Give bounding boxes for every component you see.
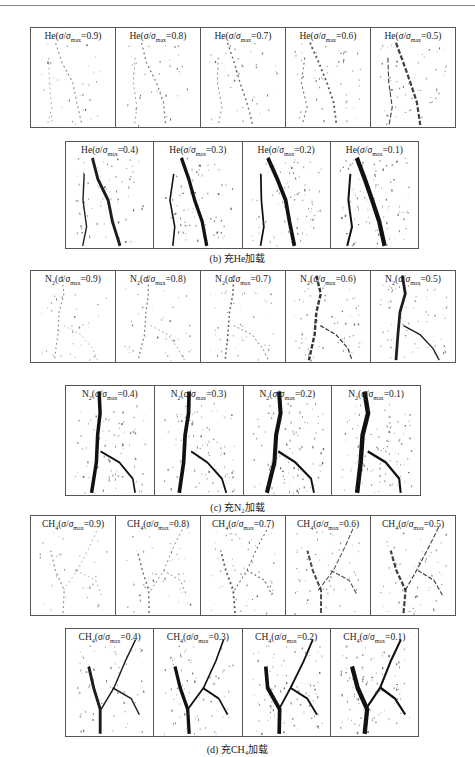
micrograph-panel-ch4-0.9: CH4(σ/σmax=0.9) <box>31 516 115 615</box>
he-row-1: He(σ/σmax=0.9)He(σ/σmax=0.8)He(σ/σmax=0.… <box>30 27 456 128</box>
panel-label: CH4(σ/σmax=0.7) <box>201 519 285 531</box>
page-header-rule <box>0 5 475 6</box>
panel-label: He(σ/σmax=0.8) <box>116 31 200 43</box>
micrograph-panel-n2-0.3: N2(σ/σmax=0.3) <box>154 386 243 495</box>
crack-pattern-icon <box>66 142 153 248</box>
micrograph-panel-ch4-0.3: CH4(σ/σmax=0.3) <box>153 629 241 736</box>
crack-pattern-icon <box>66 386 154 495</box>
panel-label: He(σ/σmax=0.3) <box>154 145 241 157</box>
panel-label: N2(σ/σmax=0.9) <box>31 274 115 286</box>
crack-pattern-icon <box>154 629 241 736</box>
panel-label: He(σ/σmax=0.6) <box>286 31 370 43</box>
n2-row-2: N2(σ/σmax=0.4)N2(σ/σmax=0.3)N2(σ/σmax=0.… <box>65 385 421 496</box>
micrograph-panel-n2-0.5: N2(σ/σmax=0.5) <box>370 271 455 362</box>
panel-label: CH4(σ/σmax=0.3) <box>154 632 241 644</box>
micrograph-panel-he-0.5: He(σ/σmax=0.5) <box>370 28 455 127</box>
crack-pattern-icon <box>331 629 418 736</box>
micrograph-panel-ch4-0.4: CH4(σ/σmax=0.4) <box>66 629 153 736</box>
panel-label: He(σ/σmax=0.5) <box>371 31 455 43</box>
panel-label: N2(σ/σmax=0.4) <box>66 389 154 401</box>
crack-pattern-icon <box>155 386 243 495</box>
micrograph-panel-ch4-0.7: CH4(σ/σmax=0.7) <box>200 516 285 615</box>
micrograph-panel-he-0.4: He(σ/σmax=0.4) <box>66 142 153 248</box>
micrograph-panel-n2-0.6: N2(σ/σmax=0.6) <box>285 271 370 362</box>
crack-pattern-icon <box>154 142 241 248</box>
panel-label: He(σ/σmax=0.4) <box>66 145 153 157</box>
panel-label: CH4(σ/σmax=0.5) <box>371 519 455 531</box>
panel-label: CH4(σ/σmax=0.2) <box>243 632 330 644</box>
crack-pattern-icon <box>66 629 153 736</box>
caption-he: (b) 充He加载 <box>0 250 475 265</box>
micrograph-panel-n2-0.9: N2(σ/σmax=0.9) <box>31 271 115 362</box>
panel-label: CH4(σ/σmax=0.4) <box>66 632 153 644</box>
panel-label: He(σ/σmax=0.9) <box>31 31 115 43</box>
micrograph-panel-he-0.2: He(σ/σmax=0.2) <box>242 142 330 248</box>
panel-label: CH4(σ/σmax=0.9) <box>31 519 115 531</box>
micrograph-panel-he-0.8: He(σ/σmax=0.8) <box>115 28 200 127</box>
micrograph-panel-he-0.6: He(σ/σmax=0.6) <box>285 28 370 127</box>
he-row-2: He(σ/σmax=0.4)He(σ/σmax=0.3)He(σ/σmax=0.… <box>65 141 419 249</box>
crack-pattern-icon <box>331 142 418 248</box>
n2-row-1: N2(σ/σmax=0.9)N2(σ/σmax=0.8)N2(σ/σmax=0.… <box>30 270 456 363</box>
micrograph-panel-ch4-0.6: CH4(σ/σmax=0.6) <box>285 516 370 615</box>
micrograph-panel-he-0.7: He(σ/σmax=0.7) <box>200 28 285 127</box>
panel-label: N2(σ/σmax=0.5) <box>371 274 455 286</box>
panel-label: He(σ/σmax=0.7) <box>201 31 285 43</box>
panel-label: N2(σ/σmax=0.8) <box>116 274 200 286</box>
crack-pattern-icon <box>244 386 332 495</box>
panel-label: He(σ/σmax=0.1) <box>331 145 418 157</box>
panel-label: N2(σ/σmax=0.1) <box>332 389 420 401</box>
micrograph-panel-he-0.3: He(σ/σmax=0.3) <box>153 142 241 248</box>
micrograph-panel-ch4-0.5: CH4(σ/σmax=0.5) <box>370 516 455 615</box>
panel-label: He(σ/σmax=0.2) <box>243 145 330 157</box>
micrograph-panel-ch4-0.2: CH4(σ/σmax=0.2) <box>242 629 330 736</box>
micrograph-panel-ch4-0.1: CH4(σ/σmax=0.1) <box>330 629 418 736</box>
panel-label: CH4(σ/σmax=0.6) <box>286 519 370 531</box>
crack-pattern-icon <box>243 142 330 248</box>
micrograph-panel-n2-0.1: N2(σ/σmax=0.1) <box>331 386 420 495</box>
panel-label: CH4(σ/σmax=0.8) <box>116 519 200 531</box>
micrograph-panel-ch4-0.8: CH4(σ/σmax=0.8) <box>115 516 200 615</box>
panel-label: N2(σ/σmax=0.2) <box>244 389 332 401</box>
panel-label: N2(σ/σmax=0.3) <box>155 389 243 401</box>
micrograph-panel-n2-0.7: N2(σ/σmax=0.7) <box>200 271 285 362</box>
crack-pattern-icon <box>332 386 420 495</box>
ch4-row-2: CH4(σ/σmax=0.4)CH4(σ/σmax=0.3)CH4(σ/σmax… <box>65 628 419 737</box>
caption-ch4: (d) 充CH₄加载 <box>0 741 475 756</box>
ch4-row-1: CH4(σ/σmax=0.9)CH4(σ/σmax=0.8)CH4(σ/σmax… <box>30 515 456 616</box>
micrograph-panel-n2-0.4: N2(σ/σmax=0.4) <box>66 386 154 495</box>
caption-n2: (c) 充N₂加载 <box>0 499 475 514</box>
panel-label: CH4(σ/σmax=0.1) <box>331 632 418 644</box>
panel-label: N2(σ/σmax=0.6) <box>286 274 370 286</box>
panel-label: N2(σ/σmax=0.7) <box>201 274 285 286</box>
micrograph-panel-n2-0.8: N2(σ/σmax=0.8) <box>115 271 200 362</box>
crack-pattern-icon <box>243 629 330 736</box>
micrograph-panel-n2-0.2: N2(σ/σmax=0.2) <box>243 386 332 495</box>
micrograph-panel-he-0.9: He(σ/σmax=0.9) <box>31 28 115 127</box>
micrograph-panel-he-0.1: He(σ/σmax=0.1) <box>330 142 418 248</box>
